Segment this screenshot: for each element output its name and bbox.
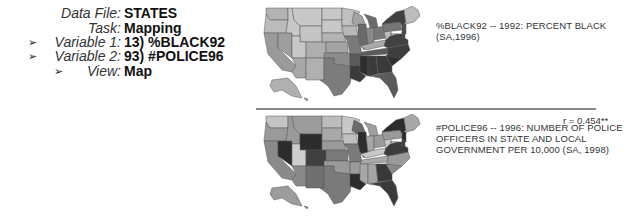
- state-hi[interactable]: [304, 98, 308, 101]
- info-row-variable-2[interactable]: ➢ Variable 2: 93) #POLICE96: [0, 49, 260, 64]
- info-value: Map: [124, 64, 152, 79]
- info-label: Data File:: [61, 6, 121, 21]
- state-nd[interactable]: [322, 116, 342, 128]
- caption-line: %BLACK92 -- 1992: PERCENT BLACK: [436, 20, 606, 31]
- map-police96[interactable]: [262, 114, 432, 210]
- state-sd[interactable]: [322, 128, 342, 141]
- state-ks[interactable]: [326, 150, 348, 161]
- state-ak[interactable]: [270, 186, 302, 206]
- caption-line: GOVERNMENT PER 10,000 (SA, 1998): [436, 144, 623, 155]
- info-value: STATES: [124, 6, 177, 21]
- state-ne_new[interactable]: [404, 6, 420, 24]
- state-ak[interactable]: [270, 78, 302, 98]
- state-co[interactable]: [306, 42, 326, 58]
- separator: [256, 108, 596, 110]
- map-caption-police96: #POLICE96 -- 1996: NUMBER OF POLICE OFFI…: [436, 122, 623, 155]
- state-wy[interactable]: [300, 134, 322, 150]
- caption-line: #POLICE96 -- 1996: NUMBER OF POLICE: [436, 122, 623, 133]
- arrow-icon: ➢: [28, 35, 37, 50]
- state-fl[interactable]: [370, 72, 398, 98]
- us-map-svg[interactable]: [262, 114, 432, 210]
- arrow-icon: ➢: [28, 49, 37, 64]
- state-co[interactable]: [306, 150, 326, 166]
- caption-line: OFFICERS IN STATE AND LOCAL: [436, 133, 623, 144]
- state-wy[interactable]: [300, 26, 322, 42]
- info-value: 93) #POLICE96: [124, 49, 224, 64]
- state-fl[interactable]: [370, 180, 398, 206]
- map-black92[interactable]: [262, 6, 432, 102]
- state-ks[interactable]: [326, 42, 348, 53]
- state-ia[interactable]: [342, 26, 358, 36]
- state-ne[interactable]: [322, 33, 346, 42]
- state-ne[interactable]: [322, 141, 346, 150]
- state-de[interactable]: [402, 140, 405, 146]
- state-hi[interactable]: [304, 206, 308, 209]
- state-wa[interactable]: [266, 8, 288, 20]
- state-wa[interactable]: [266, 116, 288, 128]
- us-map-svg[interactable]: [262, 6, 432, 102]
- info-label: View:: [87, 64, 121, 79]
- state-ia[interactable]: [342, 134, 358, 144]
- state-nm[interactable]: [306, 58, 324, 80]
- info-row-view[interactable]: ➢ View: Map: [0, 64, 260, 79]
- info-row-data-file: Data File: STATES: [0, 6, 260, 21]
- info-label: Variable 2:: [55, 49, 121, 64]
- arrow-icon: ➢: [54, 64, 63, 79]
- state-sd[interactable]: [322, 20, 342, 33]
- state-nd[interactable]: [322, 8, 342, 20]
- state-nm[interactable]: [306, 166, 324, 188]
- caption-line: (SA,1996): [436, 31, 606, 42]
- state-ne_new[interactable]: [404, 114, 420, 132]
- state-de[interactable]: [402, 32, 405, 38]
- map-caption-black92: %BLACK92 -- 1992: PERCENT BLACK (SA,1996…: [436, 20, 606, 42]
